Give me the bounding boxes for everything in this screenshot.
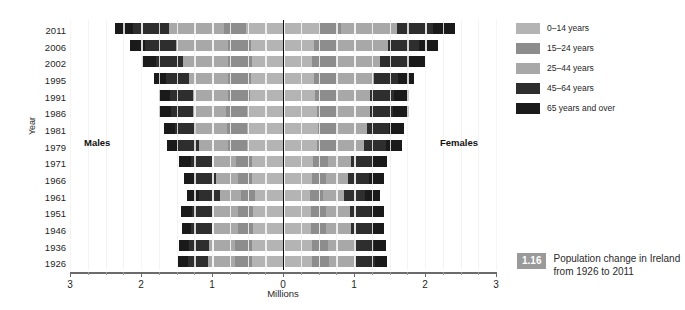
bar-segment-15-24 [224, 23, 246, 34]
bar-segment-25-44 [323, 190, 344, 201]
legend-item: 25–44 years [516, 60, 681, 76]
bar-females-2006 [283, 40, 438, 51]
bar-segment-45-64 [188, 256, 208, 267]
x-axis-tick-major [354, 272, 355, 277]
x-axis-tick-minor [194, 272, 195, 275]
bar-segment-15-24 [236, 156, 252, 167]
bar-segment-25-44 [336, 140, 364, 151]
bar-segment-0-14 [283, 56, 312, 67]
bar-segment-45-64 [178, 140, 199, 151]
bar-segment-0-14 [283, 106, 317, 117]
bar-segment-45-64 [156, 56, 183, 67]
bar-segment-15-24 [312, 256, 329, 267]
bar-segment-65+ [159, 106, 170, 117]
year-label-1995: 1995 [22, 76, 66, 86]
zero-axis-line [283, 20, 284, 270]
x-axis-tick-minor [319, 272, 320, 275]
bar-males-1979 [167, 140, 283, 151]
bar-segment-25-44 [213, 206, 238, 217]
bar-segment-25-44 [189, 73, 228, 84]
bar-segment-15-24 [312, 173, 325, 184]
bar-segment-15-24 [313, 156, 328, 167]
bar-segment-65+ [371, 206, 384, 217]
bar-segment-25-44 [326, 223, 351, 234]
year-label-1971: 1971 [22, 159, 66, 169]
legend: 0–14 years15–24 years25–44 years45–64 ye… [516, 20, 681, 120]
bar-segment-45-64 [171, 106, 193, 117]
bar-males-1951 [181, 206, 283, 217]
bar-segment-0-14 [252, 256, 283, 267]
bar-segment-45-64 [388, 40, 419, 51]
bar-segment-15-24 [228, 40, 251, 51]
bar-segment-0-14 [283, 73, 314, 84]
legend-swatch [516, 63, 540, 74]
bar-segment-65+ [181, 206, 192, 217]
bar-segment-15-24 [314, 73, 336, 84]
bar-segment-15-24 [319, 23, 341, 34]
legend-label: 0–14 years [547, 23, 589, 33]
bar-segment-0-14 [252, 240, 283, 251]
legend-label: 45–64 years [547, 83, 594, 93]
bar-segment-25-44 [209, 240, 235, 251]
bar-males-2002 [142, 56, 283, 67]
bar-segment-45-64 [192, 206, 213, 217]
bar-females-1986 [283, 106, 409, 117]
bar-segment-45-64 [350, 206, 371, 217]
bar-males-1971 [179, 156, 283, 167]
legend-label: 15–24 years [547, 43, 594, 53]
bar-segment-25-44 [328, 156, 351, 167]
bar-males-1986 [159, 106, 283, 117]
bar-segment-25-44 [169, 23, 224, 34]
bar-segment-15-24 [317, 106, 338, 117]
bar-segment-65+ [393, 106, 409, 117]
bar-segment-45-64 [370, 106, 393, 117]
legend-item: 15–24 years [516, 40, 681, 56]
females-label: Females [440, 137, 478, 148]
bar-segment-25-44 [338, 106, 371, 117]
bar-segment-65+ [372, 156, 387, 167]
bar-segment-45-64 [133, 23, 170, 34]
bar-segment-65+ [365, 190, 380, 201]
bar-segment-0-14 [250, 90, 283, 101]
bar-segment-0-14 [283, 40, 314, 51]
bar-females-1979 [283, 140, 402, 151]
bar-segment-65+ [375, 256, 387, 267]
bar-segment-15-24 [228, 73, 251, 84]
bar-segment-45-64 [145, 40, 176, 51]
bar-segment-65+ [184, 173, 195, 184]
bar-segment-15-24 [238, 173, 252, 184]
year-label-1981: 1981 [22, 126, 66, 136]
x-axis-tick-minor [372, 272, 373, 275]
bar-segment-45-64 [170, 90, 193, 101]
bar-segment-15-24 [226, 106, 247, 117]
bar-segment-0-14 [283, 173, 312, 184]
year-label-2011: 2011 [22, 26, 66, 36]
legend-label: 25–44 years [547, 63, 594, 73]
bar-females-1981 [283, 123, 404, 134]
x-axis-tick-minor [106, 272, 107, 275]
x-axis-tick-major [141, 272, 142, 277]
year-label-1991: 1991 [22, 93, 66, 103]
bar-segment-25-44 [193, 90, 229, 101]
x-axis-tick-minor [248, 272, 249, 275]
bar-segment-65+ [178, 256, 188, 267]
bar-segment-25-44 [196, 123, 227, 134]
x-axis-tick-minor [123, 272, 124, 275]
bar-segment-65+ [386, 140, 402, 151]
year-axis-labels: 2011200620021995199119861981197919711966… [22, 22, 66, 268]
legend-item: 0–14 years [516, 20, 681, 36]
bar-segment-0-14 [247, 140, 283, 151]
x-axis-title: Millions [70, 288, 496, 299]
bar-males-1936 [179, 240, 283, 251]
bar-males-1981 [164, 123, 283, 134]
gridline [496, 20, 497, 270]
x-axis-tick-major [283, 272, 284, 277]
bar-males-1991 [159, 90, 283, 101]
bar-segment-65+ [182, 223, 192, 234]
bar-segment-15-24 [228, 56, 252, 67]
bar-females-1951 [283, 206, 385, 217]
bar-segment-25-44 [336, 73, 374, 84]
x-axis-tick-minor [461, 272, 462, 275]
year-label-1951: 1951 [22, 209, 66, 219]
x-axis-tick-minor [390, 272, 391, 275]
